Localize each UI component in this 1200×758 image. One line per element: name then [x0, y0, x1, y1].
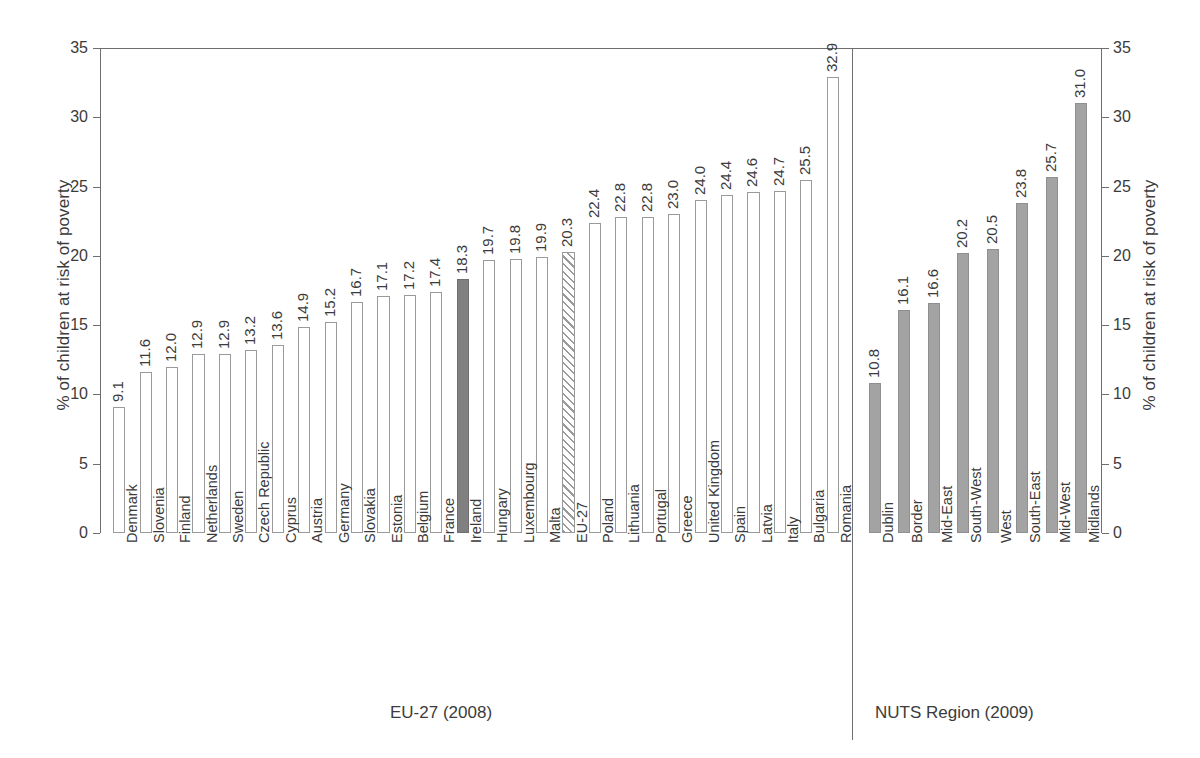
- bar-slot: 18.3: [457, 48, 469, 533]
- category-label-belgium: Belgium: [416, 491, 431, 543]
- category-label-mid-east: Mid-East: [940, 486, 955, 543]
- bar-slot: 16.6: [928, 48, 940, 533]
- bar-united-kingdom[interactable]: [695, 200, 707, 533]
- bar-romania[interactable]: [827, 77, 839, 533]
- group-caption-eu27: EU-27 (2008): [390, 703, 492, 723]
- category-label-netherlands: Netherlands: [205, 465, 220, 543]
- bar-slot: 20.2: [957, 48, 969, 533]
- y-tick-label-right-15: 15: [1113, 317, 1153, 333]
- bar-midlands[interactable]: [1075, 103, 1087, 533]
- bar-value-label: 17.1: [374, 262, 389, 291]
- bar-value-label: 20.2: [954, 219, 969, 248]
- y-tick-label-left-15: 15: [48, 317, 88, 333]
- bar-value-label: 11.6: [137, 339, 152, 367]
- bar-slot: 15.2: [325, 48, 337, 533]
- bar-mid-west[interactable]: [1046, 177, 1058, 533]
- bar-malta[interactable]: [536, 257, 548, 533]
- y-tick-label-left-0: 0: [48, 525, 88, 541]
- category-label-hungary: Hungary: [495, 488, 510, 543]
- y-tick-label-right-35: 35: [1113, 40, 1153, 56]
- y-axis-title-left: % of children at risk of poverty: [54, 85, 74, 505]
- y-tick-left-0: [93, 533, 100, 534]
- category-label-estonia: Estonia: [390, 495, 405, 543]
- bar-value-label: 10.8: [866, 349, 881, 378]
- category-label-lithuania: Lithuania: [627, 484, 642, 543]
- bar-bulgaria[interactable]: [800, 180, 812, 533]
- category-label-luxembourg: Luxembourg: [522, 462, 537, 543]
- category-label-ireland: Ireland: [469, 499, 484, 543]
- bar-luxembourg[interactable]: [510, 259, 522, 533]
- bar-slot: 14.9: [298, 48, 310, 533]
- bar-poland[interactable]: [589, 223, 601, 533]
- category-label-slovenia: Slovenia: [152, 487, 167, 543]
- bar-value-label: 15.2: [322, 288, 337, 317]
- bar-greece[interactable]: [668, 214, 680, 533]
- bar-value-label: 24.6: [744, 158, 759, 187]
- bar-slot: 17.2: [404, 48, 416, 533]
- bar-germany[interactable]: [325, 322, 337, 533]
- bar-slot: 31.0: [1075, 48, 1087, 533]
- bar-dublin[interactable]: [869, 383, 881, 533]
- bar-netherlands[interactable]: [192, 354, 204, 533]
- bar-value-label: 16.7: [348, 267, 363, 296]
- category-label-midlands: Midlands: [1087, 485, 1102, 543]
- group-divider-line: [852, 48, 853, 740]
- bar-france[interactable]: [430, 292, 442, 533]
- bar-portugal[interactable]: [642, 217, 654, 533]
- category-label-romania: Romania: [839, 485, 854, 543]
- bar-value-label: 25.7: [1043, 143, 1058, 172]
- bar-slot: 24.6: [747, 48, 759, 533]
- y-tick-right-20: [1102, 256, 1109, 257]
- bar-west[interactable]: [987, 249, 999, 533]
- bar-value-label: 23.8: [1013, 169, 1028, 198]
- y-tick-left-35: [93, 48, 100, 49]
- category-label-denmark: Denmark: [125, 484, 140, 543]
- y-axis-left-spine: [100, 48, 101, 533]
- bar-value-label: 22.8: [612, 183, 627, 212]
- category-label-malta: Malta: [548, 508, 563, 543]
- bar-value-label: 16.6: [925, 269, 940, 298]
- y-tick-label-left-25: 25: [48, 179, 88, 195]
- category-label-greece: Greece: [680, 495, 695, 543]
- bar-slot: 32.9: [827, 48, 839, 533]
- bar-estonia[interactable]: [377, 296, 389, 533]
- bar-spain[interactable]: [721, 195, 733, 533]
- bar-slovenia[interactable]: [140, 372, 152, 533]
- category-label-latvia: Latvia: [760, 504, 775, 543]
- bar-slot: 24.4: [721, 48, 733, 533]
- bar-value-label: 18.3: [454, 245, 469, 274]
- y-tick-label-left-5: 5: [48, 456, 88, 472]
- bar-value-label: 20.5: [984, 215, 999, 244]
- y-tick-right-25: [1102, 187, 1109, 188]
- y-tick-right-30: [1102, 117, 1109, 118]
- bar-value-label: 13.6: [269, 310, 284, 339]
- bar-latvia[interactable]: [747, 192, 759, 533]
- bar-value-label: 25.5: [797, 145, 812, 174]
- category-label-border: Border: [910, 499, 925, 543]
- bar-slot: 9.1: [113, 48, 125, 533]
- bar-value-label: 12.9: [216, 320, 231, 349]
- bar-slot: 17.1: [377, 48, 389, 533]
- bar-ireland[interactable]: [457, 279, 469, 533]
- category-label-united-kingdom: United Kingdom: [707, 440, 722, 543]
- y-tick-right-5: [1102, 464, 1109, 465]
- bar-mid-east[interactable]: [928, 303, 940, 533]
- bar-value-label: 12.0: [163, 333, 178, 362]
- category-label-dublin: Dublin: [881, 502, 896, 543]
- y-tick-label-right-0: 0: [1113, 525, 1153, 541]
- y-tick-label-right-30: 30: [1113, 109, 1153, 125]
- bar-value-label: 32.9: [824, 43, 839, 72]
- y-tick-label-left-35: 35: [48, 40, 88, 56]
- bar-slot: 13.6: [272, 48, 284, 533]
- category-label-france: France: [442, 498, 457, 543]
- bar-slot: 22.8: [615, 48, 627, 533]
- y-tick-label-left-30: 30: [48, 109, 88, 125]
- bar-slot: 24.7: [774, 48, 786, 533]
- y-tick-left-5: [93, 464, 100, 465]
- category-label-sweden: Sweden: [231, 491, 246, 543]
- bar-eu-27[interactable]: [562, 252, 574, 533]
- category-label-south-west: South-West: [969, 468, 984, 544]
- bar-italy[interactable]: [774, 191, 786, 533]
- bar-value-label: 14.9: [295, 292, 310, 321]
- bar-value-label: 20.3: [559, 218, 574, 247]
